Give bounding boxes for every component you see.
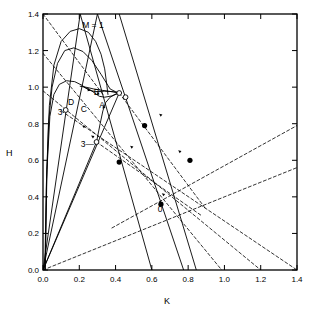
x-tick-label: 0.4 <box>110 275 122 284</box>
x-axis-label: K <box>164 296 170 306</box>
x-tick-label: 1.2 <box>255 275 267 284</box>
y-tick-label: 0.4 <box>28 193 40 202</box>
x-tick-label: 0.2 <box>74 275 86 284</box>
annotation-D: D <box>68 97 74 107</box>
x-tick-label: 0.6 <box>146 275 158 284</box>
series-ray-from-origin-4 <box>43 93 119 270</box>
annotation-C: C <box>81 104 87 114</box>
flow-arrowhead <box>130 146 133 149</box>
series-shock-line-3 <box>119 14 196 270</box>
annotation-3: 3— <box>81 139 95 149</box>
series-mach-curve-outer <box>45 48 119 270</box>
annotation-A: A <box>99 100 105 110</box>
annotation-3: 3 <box>58 107 63 117</box>
open-data-marker <box>94 140 99 145</box>
annotation-B: B <box>94 87 100 97</box>
flow-arrowhead <box>159 114 162 117</box>
series-mach-curve-M1 <box>45 29 108 270</box>
y-tick-label: 0.6 <box>28 156 40 165</box>
x-tick-label: 0.8 <box>183 275 195 284</box>
series-dashed-traj-upper <box>119 93 206 210</box>
filled-data-marker <box>117 160 122 165</box>
y-tick-label: 0.2 <box>28 229 40 238</box>
series-dashed-traj-lower <box>97 142 201 215</box>
open-data-marker <box>63 108 68 113</box>
plot-canvas: 0.00.20.40.60.81.01.21.40.00.20.40.60.81… <box>0 0 318 315</box>
open-data-marker <box>123 95 128 100</box>
annotation-0: 0 <box>158 204 163 214</box>
annotation-M1: M = 1 <box>82 20 104 30</box>
y-tick-label: 0.8 <box>28 120 40 129</box>
open-data-marker <box>117 91 122 96</box>
filled-data-marker <box>142 123 147 128</box>
filled-data-marker <box>187 158 192 163</box>
series-shock-line-2 <box>97 14 183 270</box>
y-tick-label: 1.2 <box>28 47 40 56</box>
curve-annotations: M = 1ABCD33—0 <box>58 20 163 215</box>
y-tick-label: 0.0 <box>28 266 40 275</box>
x-tick-label: 0.0 <box>37 275 49 284</box>
chart-figure: 0.00.20.40.60.81.01.21.40.00.20.40.60.81… <box>0 0 318 315</box>
y-tick-label: 1.4 <box>28 10 40 19</box>
y-tick-label: 1.0 <box>28 83 40 92</box>
x-tick-label: 1.0 <box>219 275 231 284</box>
flow-arrowhead <box>178 150 181 153</box>
x-tick-label: 1.4 <box>291 275 303 284</box>
y-axis-label: H <box>6 148 13 158</box>
flow-arrowhead <box>162 193 165 196</box>
